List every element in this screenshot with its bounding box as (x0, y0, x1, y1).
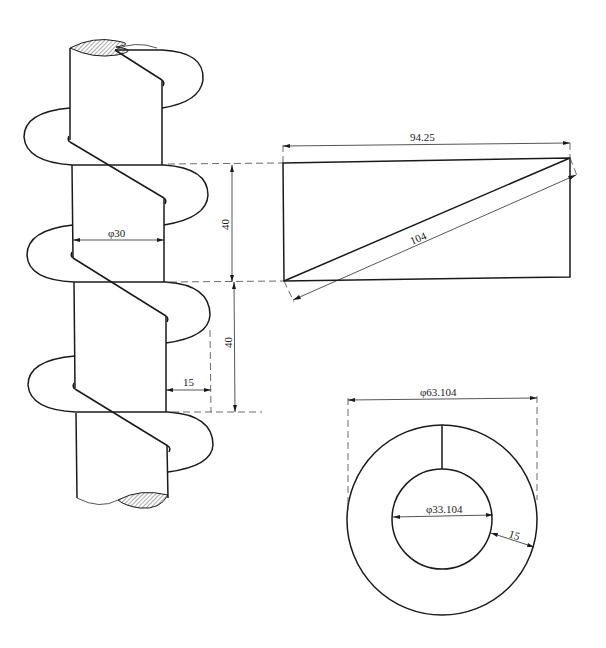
flight-width-label: 15 (183, 376, 195, 388)
dim-arrow (232, 282, 236, 289)
shaft-left-edge-3 (74, 282, 75, 388)
shaft-right-edge-4 (167, 446, 168, 498)
dim-arrow (568, 175, 576, 180)
dim-arrow (530, 396, 537, 400)
ext-line-flight-outer (210, 330, 211, 412)
dim-outer-diameter-line (348, 398, 537, 400)
shaft-bottom-section-hatch (118, 492, 168, 508)
development-view: 94.25 104 (283, 131, 578, 302)
flight-left-lobe-3 (28, 356, 76, 412)
technical-drawing: φ30 40 40 15 94.25 (0, 0, 606, 648)
dim-arrow-right (157, 238, 164, 242)
dim-arrow (283, 144, 290, 148)
helix-diagonal-2 (70, 142, 164, 198)
helix-diagonal-4 (75, 389, 168, 446)
ext-line-diag-low (284, 281, 294, 302)
shaft-left-edge-2 (72, 165, 73, 258)
dim-arrow (230, 275, 234, 282)
inner-diameter-label: φ33.104 (426, 503, 463, 515)
flight-right-lobe-1 (162, 50, 203, 108)
dim-arrow (293, 295, 301, 300)
dim-arrow-left (73, 238, 80, 242)
helix-development-diagonal (284, 158, 570, 281)
helix-diagonal-1 (115, 50, 162, 80)
dim-helix-length-line (293, 175, 576, 300)
dim-inner-diameter-line (393, 515, 493, 517)
dim-arrow (204, 388, 211, 392)
elevation-view: φ30 40 40 15 (24, 40, 284, 509)
shaft-bottom-break-arc (77, 498, 118, 505)
pitch-label-upper: 40 (219, 219, 231, 231)
inner-circle (392, 469, 492, 569)
ext-line-diag-high (570, 158, 578, 178)
dim-pitch-line-lower (234, 282, 235, 412)
ext-line-top (168, 163, 283, 164)
blank-width-label: 15 (507, 527, 522, 542)
shaft-diameter-label: φ30 (108, 227, 126, 239)
circumference-label: 94.25 (410, 131, 435, 143)
flight-right-lobe-2 (164, 165, 208, 225)
dim-arrow (491, 533, 498, 537)
dim-arrow (230, 165, 234, 172)
dim-arrow (166, 388, 173, 392)
helix-length-label: 104 (408, 229, 428, 247)
outer-diameter-label: φ63.104 (420, 386, 457, 398)
flight-right-lobe-3 (166, 282, 210, 343)
flight-left-lobe-1 (24, 108, 72, 165)
flight-right-lobe-4 (168, 412, 213, 472)
helix-diagonal-3 (73, 258, 166, 316)
dim-arrow (563, 141, 570, 145)
helix-hook-7 (168, 446, 170, 452)
ext-line-middle (170, 281, 284, 282)
dim-arrow (233, 405, 237, 412)
flat-blank-view: φ63.104 φ33.104 15 (347, 386, 537, 615)
dim-arrow (348, 398, 355, 402)
shaft-left-edge-4 (76, 413, 77, 498)
dim-circumference-line (283, 143, 570, 146)
dim-arrow (393, 515, 400, 519)
flight-left-lobe-2 (27, 225, 74, 282)
pitch-label-lower: 40 (222, 337, 234, 349)
